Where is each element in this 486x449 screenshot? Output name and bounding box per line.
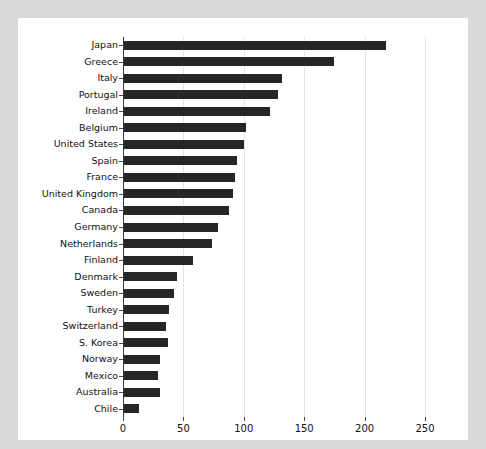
bar — [123, 156, 237, 165]
y-tick-label: Netherlands — [60, 239, 118, 249]
bar — [123, 41, 386, 50]
y-tick-label: Portugal — [79, 90, 118, 100]
bar — [123, 388, 160, 397]
bar — [123, 338, 168, 347]
y-tick-label: Germany — [74, 222, 118, 232]
y-tick-label: Australia — [76, 387, 118, 397]
y-axis-line — [123, 37, 124, 417]
x-tick-label: 0 — [120, 423, 126, 434]
x-tick-mark — [304, 417, 305, 421]
bar — [123, 322, 166, 331]
y-tick-label: Turkey — [87, 305, 118, 315]
y-tick-label: Canada — [82, 205, 118, 215]
bar — [123, 223, 218, 232]
bar — [123, 355, 160, 364]
bar — [123, 272, 177, 281]
bar — [123, 239, 212, 248]
bar — [123, 305, 169, 314]
x-tick-label: 200 — [355, 423, 374, 434]
y-tick-label: United Kingdom — [42, 189, 118, 199]
y-tick-label: Greece — [84, 57, 118, 67]
x-tick-label: 250 — [415, 423, 434, 434]
x-tick-mark — [365, 417, 366, 421]
bar — [123, 140, 244, 149]
x-tick-mark — [244, 417, 245, 421]
x-tick-mark — [425, 417, 426, 421]
y-tick-label: Mexico — [85, 371, 118, 381]
y-tick-label: Japan — [92, 40, 119, 50]
x-tick-label: 100 — [234, 423, 253, 434]
y-tick-label: Ireland — [85, 106, 118, 116]
y-tick-label: Italy — [97, 73, 118, 83]
x-tick-label: 50 — [177, 423, 190, 434]
y-tick-label: S. Korea — [79, 338, 118, 348]
bar — [123, 206, 229, 215]
y-tick-label: Sweden — [80, 288, 118, 298]
bar — [123, 256, 193, 265]
y-tick-label: Switzerland — [63, 321, 118, 331]
bar — [123, 371, 158, 380]
bar — [123, 404, 139, 413]
bar — [123, 189, 233, 198]
bar — [123, 173, 235, 182]
y-tick-label: Belgium — [79, 123, 118, 133]
x-tick-mark — [183, 417, 184, 421]
x-tick-mark — [123, 417, 124, 421]
y-tick-label: France — [86, 172, 118, 182]
bar — [123, 123, 246, 132]
bar — [123, 74, 282, 83]
gridline-x — [365, 37, 366, 417]
bar — [123, 90, 278, 99]
y-tick-label: Norway — [82, 354, 118, 364]
figure-canvas: 050100150200250JapanGreeceItalyPortugalI… — [18, 18, 468, 440]
gridline-x — [304, 37, 305, 417]
y-tick-label: Chile — [94, 404, 118, 414]
bar — [123, 57, 334, 66]
y-tick-label: Finland — [84, 255, 118, 265]
bar — [123, 289, 174, 298]
plot-area: 050100150200250JapanGreeceItalyPortugalI… — [123, 37, 425, 417]
bar — [123, 107, 270, 116]
y-tick-label: United States — [54, 139, 118, 149]
y-tick-label: Spain — [91, 156, 118, 166]
gridline-x — [425, 37, 426, 417]
y-tick-label: Denmark — [74, 272, 118, 282]
x-tick-label: 150 — [295, 423, 314, 434]
